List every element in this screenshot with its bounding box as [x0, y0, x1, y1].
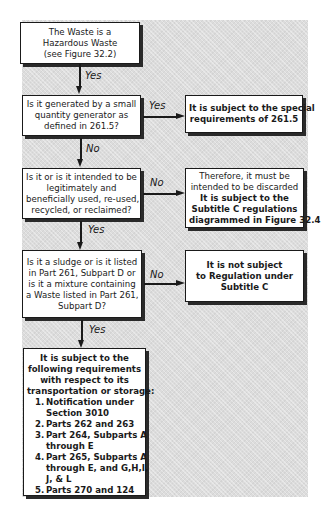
item-number: 3.: [35, 430, 46, 452]
question-box-small-quantity-generator: Is it generated by a small quantity gene…: [22, 95, 141, 136]
arrow-down-icon: [78, 340, 84, 348]
q1-line: defined in 261.5?: [26, 121, 137, 132]
item-text: Part 265, Subparts Athrough E, and G,H,I…: [46, 452, 148, 485]
item-text: Parts 270 and 124: [46, 485, 134, 496]
q2-line: legitimately and: [26, 183, 137, 194]
r1-line: requirements of 261.5: [189, 114, 299, 125]
question-box-sludge-or-listed: Is it a sludge or is it listed in Part 2…: [22, 250, 142, 318]
arrow-right-icon: [176, 113, 185, 119]
r2-line: Therefore, it must be: [189, 171, 300, 182]
q1-line: quantity generator as: [26, 110, 137, 121]
connector-start-to-q1: [79, 64, 81, 88]
arrow-right-icon: [176, 280, 185, 286]
item-line: Part 264, Subparts A: [46, 430, 147, 441]
requirements-list: 1. Notification underSection 3010 2. Par…: [27, 397, 142, 496]
start-line: Hazardous Waste: [24, 38, 136, 49]
r3-line: It is not subject: [189, 260, 300, 271]
q3-line: a Waste listed in Part 261,: [26, 290, 138, 301]
r3-line: to Regulation under: [189, 271, 300, 282]
q3-line: Is it a sludge or is it listed: [26, 257, 138, 268]
no-label: No: [150, 177, 164, 188]
final-box-requirements: It is subject to the following requireme…: [23, 348, 146, 496]
r2-line: diagrammed in Figure 32.4: [189, 215, 300, 226]
requirement-item: 1. Notification underSection 3010: [35, 397, 142, 419]
connector-q2-to-q3: [80, 221, 82, 244]
final-intro-line: with respect to its: [27, 375, 142, 386]
requirement-item: 5. Parts 270 and 124: [35, 485, 142, 496]
result-box-special-requirements: It is subject to the special requirement…: [185, 95, 303, 133]
final-intro-line: following requirements: [27, 364, 142, 375]
item-line: Notification under: [46, 397, 134, 408]
item-line: Section 3010: [46, 408, 134, 419]
item-line: through E: [46, 441, 147, 452]
item-number: 1.: [35, 397, 46, 419]
arrow-down-icon: [76, 86, 82, 94]
result-box-subtitle-c-regulations: Therefore, it must be intended to be dis…: [185, 168, 304, 228]
q1-line: Is it generated by a small: [26, 99, 137, 110]
r2-line: intended to be discarded: [189, 182, 300, 193]
start-box-hazardous-waste: The Waste is a Hazardous Waste (see Figu…: [20, 22, 140, 64]
item-text: Notification underSection 3010: [46, 397, 134, 419]
connector-q2-no: [143, 193, 177, 195]
r2-line: Subtitle C regulations: [189, 204, 300, 215]
item-line: Parts 262 and 263: [46, 419, 134, 430]
question-box-beneficially-used: Is it or is it intended to be legitimate…: [22, 168, 141, 219]
yes-label: Yes: [89, 324, 105, 335]
item-text: Parts 262 and 263: [46, 419, 134, 430]
item-line: Parts 270 and 124: [46, 485, 134, 496]
connector-q3-no: [144, 283, 177, 285]
item-number: 4.: [35, 452, 46, 485]
start-line: The Waste is a: [24, 27, 136, 38]
item-text: Part 264, Subparts Athrough E: [46, 430, 147, 452]
arrow-right-icon: [176, 190, 185, 196]
q3-line: is it a mixture containing: [26, 279, 138, 290]
no-label: No: [150, 269, 164, 280]
r2-line: It is subject to the: [189, 193, 300, 204]
no-label: No: [86, 143, 100, 154]
r1-line: It is subject to the special: [189, 103, 299, 114]
item-line: through E, and G,H,I,: [46, 463, 148, 474]
connector-q1-to-q2: [80, 138, 82, 161]
connector-q3-to-final: [81, 320, 83, 341]
item-line: Part 265, Subparts A: [46, 452, 148, 463]
result-box-not-subject: It is not subject to Regulation under Su…: [185, 250, 304, 302]
requirement-item: 4. Part 265, Subparts Athrough E, and G,…: [35, 452, 142, 485]
yes-label: Yes: [85, 70, 101, 81]
item-number: 2.: [35, 419, 46, 430]
yes-label: Yes: [88, 224, 104, 235]
requirement-item: 2. Parts 262 and 263: [35, 419, 142, 430]
arrow-down-icon: [77, 242, 83, 250]
requirement-item: 3. Part 264, Subparts Athrough E: [35, 430, 142, 452]
q2-line: Is it or is it intended to be: [26, 172, 137, 183]
item-number: 5.: [35, 485, 46, 496]
q2-line: recycled, or reclaimed?: [26, 205, 137, 216]
yes-label: Yes: [149, 100, 165, 111]
r3-line: Subtitle C: [189, 282, 300, 293]
q3-line: Subpart D?: [26, 301, 138, 312]
connector-q1-yes: [143, 116, 177, 118]
final-intro-line: It is subject to the: [27, 353, 142, 364]
q2-line: beneficially used, re-used,: [26, 194, 137, 205]
start-line: (see Figure 32.2): [24, 49, 136, 60]
arrow-down-icon: [77, 159, 83, 167]
final-intro-line: transportation or storage:: [27, 386, 142, 397]
q3-line: in Part 261, Subpart D or: [26, 268, 138, 279]
item-line: J, & L: [46, 474, 148, 485]
